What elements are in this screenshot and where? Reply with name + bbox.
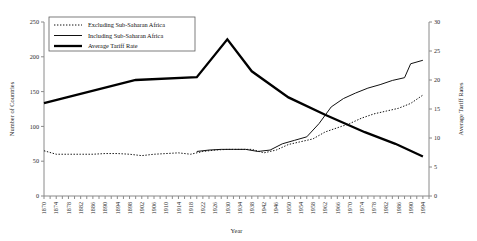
y-axis-right-tick-label: 15	[434, 105, 440, 112]
y-axis-right-tick-label: 0	[434, 192, 437, 199]
y-axis-left-tick-label: 100	[30, 123, 39, 130]
legend-label-0: Excluding Sub-Saharan Africa	[88, 21, 165, 28]
x-axis-tick-label: 1982	[383, 202, 389, 214]
y-axis-right-title: Average Tariff Rates	[457, 82, 464, 135]
x-axis-tick-label: 1910	[163, 202, 169, 214]
x-axis-tick-label: 1958	[310, 202, 316, 214]
y-axis-left-tick-label: 250	[30, 18, 39, 25]
x-axis-tick-label: 1878	[66, 202, 72, 214]
x-axis-tick-label: 1962	[322, 202, 328, 214]
x-axis-tick-label: 1914	[176, 202, 182, 214]
series-line-average-tariff-rate	[44, 39, 423, 156]
x-axis-tick-label: 1894	[115, 202, 121, 214]
x-axis-tick-label: 1966	[335, 202, 341, 214]
x-axis-tick-label: 1970	[347, 202, 353, 214]
y-axis-right-tick-label: 25	[434, 47, 440, 54]
legend-label-2: Average Tariff Rate	[88, 42, 138, 49]
chart-container: 050100150200250 051015202530 18701874187…	[0, 0, 477, 241]
x-axis-tick-label: 1942	[261, 202, 267, 214]
y-axis-right-tick-label: 30	[434, 18, 440, 25]
data-series-group	[44, 39, 423, 156]
x-axis-tick-label: 1926	[212, 202, 218, 214]
y-axis-left-tick-label: 200	[30, 53, 39, 60]
x-axis: 1870187418781882188618901894189819021906…	[41, 196, 429, 214]
series-line-excluding-sub-saharan-africa	[44, 95, 423, 156]
x-axis-tick-label: 1994	[420, 202, 426, 214]
y-axis-right: 051015202530	[429, 18, 440, 199]
x-axis-tick-label: 1882	[78, 202, 84, 214]
x-axis-tick-label: 1938	[249, 202, 255, 214]
x-axis-tick-label: 1950	[286, 202, 292, 214]
y-axis-left-tick-label: 150	[30, 88, 39, 95]
x-axis-tick-label: 1906	[151, 202, 157, 214]
x-axis-tick-label: 1978	[371, 202, 377, 214]
x-axis-tick-label: 1902	[139, 202, 145, 214]
x-axis-tick-label: 1870	[41, 202, 47, 214]
y-axis-right-tick-label: 10	[434, 134, 440, 141]
x-axis-tick-label: 1946	[273, 202, 279, 214]
y-axis-left-tick-label: 50	[33, 157, 39, 164]
x-axis-tick-label: 1890	[102, 202, 108, 214]
x-axis-tick-label: 1898	[127, 202, 133, 214]
legend-label-1: Including Sub-Saharan Africa	[88, 32, 163, 39]
x-axis-tick-label: 1922	[200, 202, 206, 214]
x-axis-tick-label: 1886	[90, 202, 96, 214]
x-axis-tick-label: 1918	[188, 202, 194, 214]
chart-svg: 050100150200250 051015202530 18701874187…	[0, 0, 477, 241]
x-axis-tick-label: 1934	[237, 202, 243, 214]
series-line-including-sub-saharan-africa	[197, 60, 423, 151]
x-axis-title: Year	[231, 227, 244, 234]
y-axis-left: 050100150200250	[30, 18, 44, 199]
x-axis-tick-label: 1930	[225, 202, 231, 214]
chart-legend: Excluding Sub-Saharan AfricaIncluding Su…	[49, 17, 195, 51]
x-axis-tick-label: 1990	[408, 202, 414, 214]
x-axis-tick-label: 1874	[53, 202, 59, 214]
y-axis-left-tick-label: 0	[36, 192, 39, 199]
x-axis-tick-label: 1986	[396, 202, 402, 214]
x-axis-tick-label: 1954	[298, 202, 304, 214]
x-axis-tick-label: 1974	[359, 202, 365, 214]
y-axis-left-title: Number of Countries	[8, 81, 15, 136]
y-axis-right-tick-label: 20	[434, 76, 440, 83]
y-axis-right-tick-label: 5	[434, 163, 437, 170]
